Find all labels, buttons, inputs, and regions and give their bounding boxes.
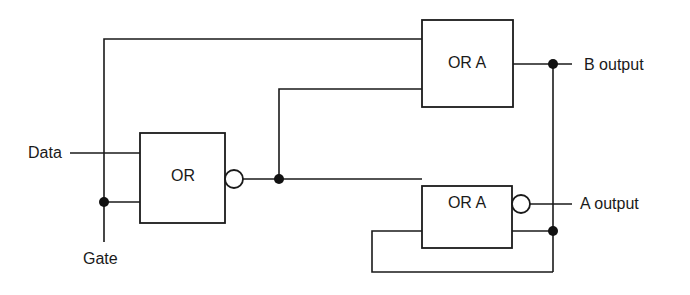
or-inverter-bubble [225, 170, 243, 188]
or-a-bottom-label: OR A [448, 195, 486, 211]
a-output-label: A output [580, 196, 639, 212]
junction-feedback [548, 226, 558, 236]
wire-or-to-ora-top [279, 89, 422, 179]
data-input-label: Data [28, 145, 62, 161]
b-output-label: B output [584, 57, 644, 73]
gate-input-label: Gate [83, 251, 118, 267]
junction-b-output [548, 59, 558, 69]
junction-or-output [274, 174, 284, 184]
or-gate-label: OR [171, 168, 195, 184]
or-a-top-label: OR A [448, 55, 486, 71]
or-a-bottom-inverter-bubble [512, 195, 530, 213]
junction-gate [99, 197, 109, 207]
